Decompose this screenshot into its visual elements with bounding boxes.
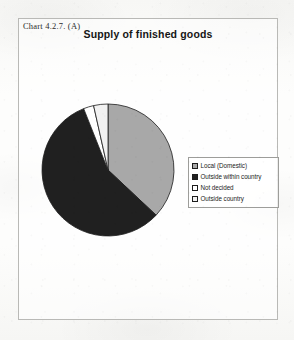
pie-chart [41, 103, 175, 237]
legend-item-not-decided[interactable]: Not decided [192, 183, 276, 193]
legend-item-outside-within-country[interactable]: Outside within country [192, 172, 276, 182]
legend-label-outside-country: Outside country [201, 195, 244, 203]
legend-label-not-decided: Not decided [201, 184, 234, 192]
legend-label-local-domestic: Local (Domestic) [201, 162, 247, 170]
legend-item-local-domestic[interactable]: Local (Domestic) [192, 161, 276, 171]
legend-swatch-icon-local-domestic [192, 163, 198, 169]
chart-legend: Local (Domestic) Outside within country … [188, 157, 279, 208]
pie-chart-svg [41, 103, 175, 237]
chart-title: Supply of finished goods [18, 28, 278, 40]
legend-item-outside-country[interactable]: Outside country [192, 194, 276, 204]
document-page: Chart 4.2.7. (A) Supply of finished good… [0, 0, 294, 340]
legend-swatch-icon-outside-country [192, 196, 198, 202]
legend-label-outside-within-country: Outside within country [201, 173, 262, 181]
legend-swatch-icon-outside-within-country [192, 174, 198, 180]
pie-slice-group [42, 104, 174, 236]
legend-swatch-icon-not-decided [192, 185, 198, 191]
